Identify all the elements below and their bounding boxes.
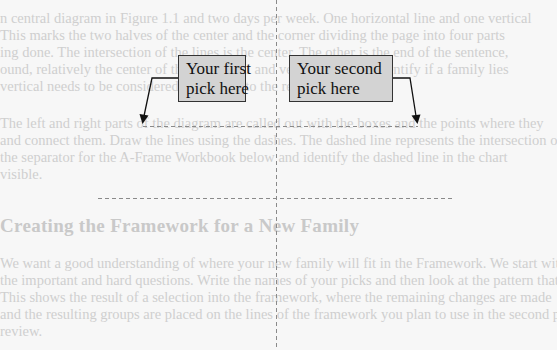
first-pick-callout-line-1: Your first [186,59,239,79]
first-pick-callout-line-2: pick here [186,79,239,99]
second-pick-callout: Your second pick here [289,55,393,102]
diagram-overlay [0,0,557,350]
second-pick-callout-line-2: pick here [297,79,386,99]
second-pick-arrow-icon [392,78,421,124]
first-pick-arrow-icon [140,78,179,124]
second-pick-callout-line-1: Your second [297,59,386,79]
first-pick-callout: Your first pick here [178,55,246,102]
